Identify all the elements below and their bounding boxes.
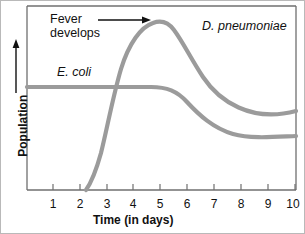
- chart-figure: Fever develops D. pneumoniae E. coli Pop…: [0, 0, 305, 234]
- series-label-dpneumoniae: D. pneumoniae: [202, 19, 287, 33]
- x-tick-label-5: 5: [150, 197, 170, 211]
- x-tick-label-10: 10: [283, 197, 303, 211]
- fever-annotation-line2: develops: [50, 26, 100, 40]
- fever-annotation-label: Fever develops: [50, 12, 100, 40]
- x-tick-label-3: 3: [97, 197, 117, 211]
- y-axis-title: Population: [17, 81, 30, 171]
- x-tick-label-9: 9: [258, 197, 278, 211]
- x-tick-label-7: 7: [204, 197, 224, 211]
- series-label-ecoli: E. coli: [57, 65, 91, 79]
- x-axis-title: Time (in days): [93, 214, 173, 227]
- x-tick-label-8: 8: [231, 197, 251, 211]
- x-tick-label-6: 6: [177, 197, 197, 211]
- x-tick-label-4: 4: [123, 197, 143, 211]
- fever-annotation-line1: Fever: [50, 12, 100, 26]
- x-tick-label-2: 2: [70, 197, 90, 211]
- fever-annotation-arrow-icon: [98, 16, 151, 23]
- x-tick-label-1: 1: [43, 197, 63, 211]
